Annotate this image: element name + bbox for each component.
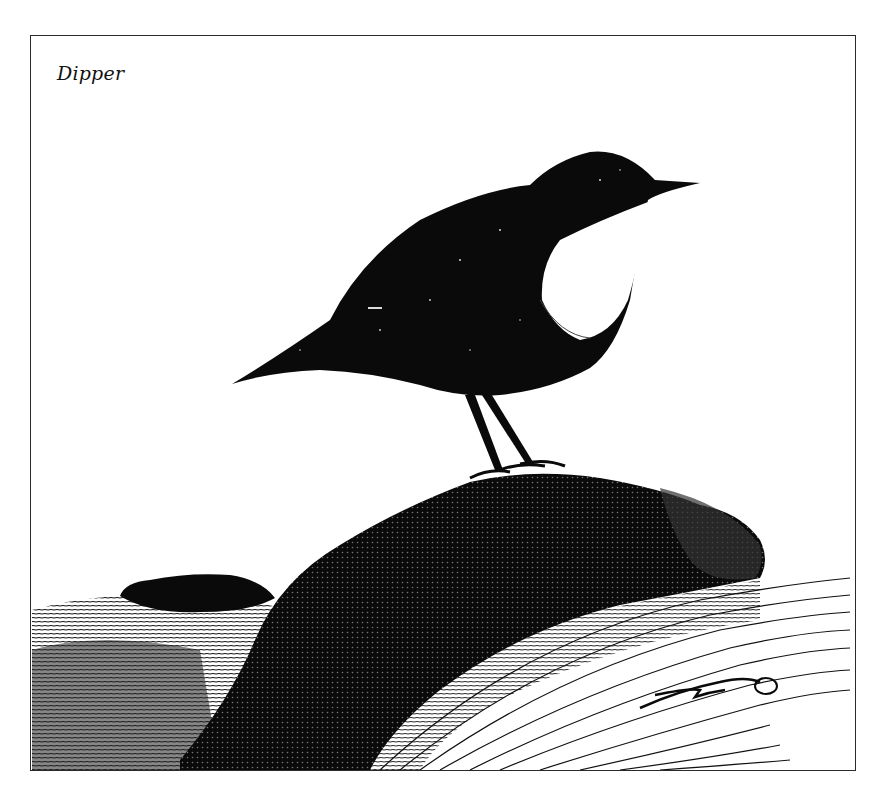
artist-signature (640, 678, 777, 708)
dipper-illustration (0, 0, 885, 806)
dipper-bird (232, 152, 700, 478)
